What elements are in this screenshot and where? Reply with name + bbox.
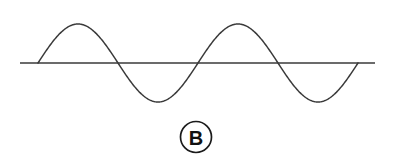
figure-label-b: B bbox=[181, 122, 212, 153]
label-letter-text: B bbox=[189, 127, 203, 149]
waveform-diagram: B bbox=[0, 0, 394, 161]
waveform-figure: B bbox=[0, 0, 394, 161]
